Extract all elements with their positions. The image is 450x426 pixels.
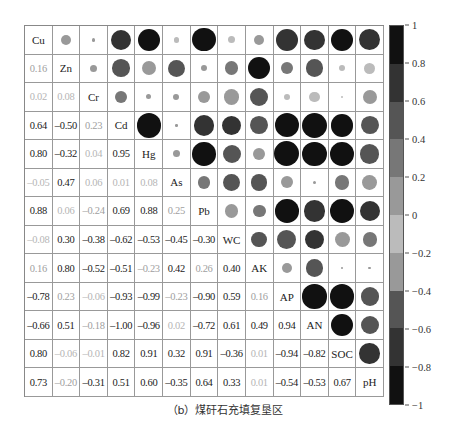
correlation-circle-cell xyxy=(329,169,357,198)
colorbar-tick-label: 0.6 xyxy=(405,96,425,107)
correlation-value: 0.49 xyxy=(251,320,268,331)
correlation-circle-cell xyxy=(329,112,357,141)
correlation-value: –0.45 xyxy=(165,234,187,245)
correlation-circle-cell xyxy=(53,26,81,55)
correlation-value-cell: 0.02 xyxy=(163,311,191,340)
variable-label-text: Pb xyxy=(198,205,210,217)
correlation-matrix: Cu0.16Zn0.020.08Cr0.64–0.500.23Cd0.80–0.… xyxy=(24,25,384,397)
correlation-circle-cell xyxy=(356,26,384,55)
correlation-circle-cell xyxy=(329,197,357,226)
correlation-circle-icon xyxy=(306,259,324,277)
correlation-circle-cell xyxy=(135,83,163,112)
colorbar-bin xyxy=(390,139,403,177)
correlation-circle-icon xyxy=(175,124,178,127)
correlation-circle-cell xyxy=(191,140,219,169)
correlation-circle-cell xyxy=(218,169,246,198)
correlation-circle-cell xyxy=(356,169,384,198)
correlation-circle-icon xyxy=(306,59,324,77)
correlation-circle-icon xyxy=(112,59,130,77)
correlation-circle-cell xyxy=(135,26,163,55)
correlation-value-cell: –0.93 xyxy=(108,283,136,312)
correlation-circle-icon xyxy=(281,62,293,74)
correlation-value: 0.94 xyxy=(278,320,295,331)
colorbar-bin xyxy=(390,215,403,253)
correlation-circle-cell xyxy=(246,169,274,198)
colorbar-tick-label: −0.6 xyxy=(405,324,431,335)
correlation-circle-icon xyxy=(224,89,239,104)
correlation-value-cell: –0.01 xyxy=(80,340,108,369)
correlation-circle-icon xyxy=(330,284,354,308)
correlation-value-cell: –0.31 xyxy=(80,368,108,397)
correlation-value: –0.90 xyxy=(193,291,215,302)
correlation-value: –0.50 xyxy=(55,120,77,131)
correlation-circle-cell xyxy=(301,226,329,255)
variable-label-text: WC xyxy=(223,234,241,246)
correlation-value: 0.01 xyxy=(251,377,268,388)
correlation-circle-cell xyxy=(218,140,246,169)
correlation-value-cell: 0.91 xyxy=(135,340,163,369)
correlation-value: 0.51 xyxy=(57,320,74,331)
correlation-value: –0.93 xyxy=(110,291,132,302)
correlation-circle-icon xyxy=(331,114,354,137)
correlation-circle-icon xyxy=(276,29,298,51)
correlation-value-cell: 0.60 xyxy=(135,368,163,397)
correlation-value-cell: 0.16 xyxy=(246,283,274,312)
correlation-circle-icon xyxy=(192,142,215,165)
correlation-value: 0.33 xyxy=(223,377,240,388)
variable-label: Cr xyxy=(80,83,108,112)
correlation-value-cell: 0.88 xyxy=(135,197,163,226)
correlation-circle-cell xyxy=(356,311,384,340)
correlation-circle-cell xyxy=(246,112,274,141)
correlation-circle-icon xyxy=(304,30,324,50)
correlation-value-cell: 0.51 xyxy=(108,368,136,397)
correlation-value: –0.53 xyxy=(303,377,325,388)
correlation-circle-cell xyxy=(329,26,357,55)
correlation-circle-icon xyxy=(363,232,377,246)
correlation-value-cell: –0.53 xyxy=(135,226,163,255)
correlation-value: 0.60 xyxy=(140,377,157,388)
correlation-value-cell: –0.05 xyxy=(25,169,53,198)
correlation-value-cell: 0.94 xyxy=(274,311,302,340)
correlation-value-cell: –0.36 xyxy=(218,340,246,369)
correlation-circle-icon xyxy=(222,116,242,136)
correlation-circle-cell xyxy=(274,254,302,283)
correlation-circle-cell xyxy=(329,283,357,312)
correlation-circle-cell xyxy=(274,83,302,112)
variable-label-text: Hg xyxy=(142,148,155,160)
correlation-value: 0.64 xyxy=(30,120,47,131)
correlation-value-cell: 0.04 xyxy=(80,140,108,169)
correlation-value-cell: 0.23 xyxy=(80,112,108,141)
variable-label-text: Cd xyxy=(115,119,128,131)
correlation-value: 0.08 xyxy=(57,91,74,102)
correlation-value-cell: –0.50 xyxy=(53,112,81,141)
correlation-circle-icon xyxy=(194,115,215,136)
correlation-value: –0.18 xyxy=(82,320,104,331)
correlation-circle-icon xyxy=(201,65,207,71)
correlation-circle-cell xyxy=(191,26,219,55)
correlation-circle-cell xyxy=(274,169,302,198)
correlation-value: 0.01 xyxy=(251,348,268,359)
correlation-value-cell: 0.47 xyxy=(53,169,81,198)
correlation-value-cell: –0.66 xyxy=(25,311,53,340)
correlation-value: –0.94 xyxy=(276,348,298,359)
correlation-value: 0.16 xyxy=(30,263,47,274)
correlation-circle-icon xyxy=(363,90,377,104)
colorbar-bin xyxy=(390,26,403,64)
correlation-value-cell: –0.38 xyxy=(80,226,108,255)
correlation-circle-cell xyxy=(329,254,357,283)
correlation-value-cell: –0.24 xyxy=(80,197,108,226)
colorbar-bin xyxy=(390,253,403,291)
correlation-value: 0.30 xyxy=(57,234,74,245)
correlation-value-cell: 0.67 xyxy=(329,368,357,397)
correlation-circle-icon xyxy=(364,63,375,74)
correlation-circle-icon xyxy=(198,91,210,103)
correlation-circle-cell xyxy=(356,197,384,226)
correlation-value: 0.64 xyxy=(195,377,212,388)
correlation-circle-cell xyxy=(218,55,246,84)
correlation-value: 0.06 xyxy=(57,205,74,216)
variable-label-text: AN xyxy=(307,319,323,331)
correlation-value: 0.32 xyxy=(168,348,185,359)
correlation-circle-cell xyxy=(191,169,219,198)
correlation-circle-icon xyxy=(341,267,344,270)
variable-label-text: Zn xyxy=(60,62,72,74)
